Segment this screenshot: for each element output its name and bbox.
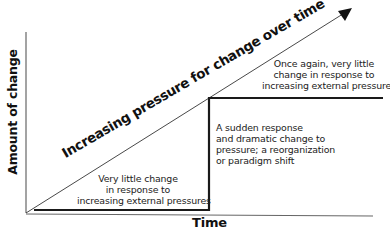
high-phase-annotation: Once again, very little change in respon… [262,58,386,91]
annotation-line: in response to [77,184,199,195]
x-axis-title: Time [192,215,227,230]
pressure-change-diagram: Amount of change Time Increasing pressur… [0,0,390,232]
annotation-line: pressure; a reorganization [216,144,335,155]
annotation-line: A sudden response [216,122,335,133]
annotation-line: increasing external pressures [262,80,386,91]
annotation-line: Very little change [77,173,199,184]
annotation-line: change in response to [262,69,386,80]
arrow-up-right-icon [338,8,352,21]
y-axis-title: Amount of change [5,49,20,175]
jump-phase-annotation: A sudden response and dramatic change to… [216,122,335,166]
annotation-line: or paradigm shift [216,155,335,166]
annotation-line: Once again, very little [262,58,386,69]
annotation-line: and dramatic change to [216,133,335,144]
annotation-line: increasing external pressures [77,195,199,206]
low-phase-annotation: Very little change in response to increa… [77,173,199,206]
